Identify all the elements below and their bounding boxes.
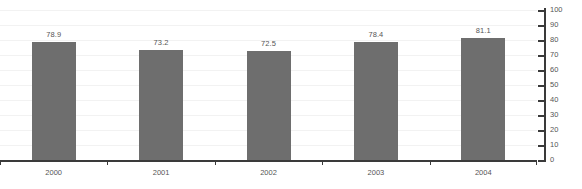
category-tick	[430, 160, 431, 165]
value-tick	[538, 145, 545, 147]
category-tick	[322, 160, 323, 165]
category-label-2000: 2000	[24, 168, 84, 177]
value-tick-label-30: 30	[550, 111, 558, 119]
category-tick	[107, 160, 108, 165]
value-axis: 1009080706050403020100	[537, 0, 582, 189]
value-tick	[538, 115, 545, 117]
bar	[461, 38, 505, 160]
value-tick	[538, 55, 545, 57]
category-label-2004: 2004	[453, 168, 513, 177]
value-tick-label-90: 90	[550, 21, 558, 29]
value-tick-label-70: 70	[550, 51, 558, 59]
bar-value-label: 78.9	[24, 30, 84, 39]
value-tick	[538, 100, 545, 102]
value-tick-label-80: 80	[550, 36, 558, 44]
value-tick-label-10: 10	[550, 141, 558, 149]
category-label-2001: 2001	[131, 168, 191, 177]
baseline	[0, 160, 537, 162]
bar-value-label: 78.4	[346, 30, 406, 39]
category-label-2002: 2002	[239, 168, 299, 177]
bar-value-label: 73.2	[131, 38, 191, 47]
bar	[139, 50, 183, 160]
bar	[354, 42, 398, 160]
value-tick	[538, 160, 545, 162]
value-tick-label-100: 100	[550, 6, 563, 14]
value-tick	[538, 25, 545, 27]
bar-value-label: 72.5	[239, 39, 299, 48]
bar	[247, 51, 291, 160]
value-tick-label-60: 60	[550, 66, 558, 74]
bar	[32, 42, 76, 160]
category-label-2003: 2003	[346, 168, 406, 177]
plot-area: 78.973.272.578.481.1 2000200120022003200…	[0, 0, 537, 189]
bar-chart: 78.973.272.578.481.1 2000200120022003200…	[0, 0, 582, 189]
value-tick	[538, 40, 545, 42]
value-tick	[538, 70, 545, 72]
value-tick-label-50: 50	[550, 81, 558, 89]
value-tick-label-20: 20	[550, 126, 558, 134]
bar-value-label: 81.1	[453, 26, 513, 35]
value-tick-label-0: 0	[550, 156, 554, 164]
value-tick	[538, 130, 545, 132]
category-tick	[0, 160, 1, 165]
gridline	[0, 10, 537, 11]
category-tick	[215, 160, 216, 165]
value-tick	[538, 10, 545, 12]
value-tick	[538, 85, 545, 87]
value-tick-label-40: 40	[550, 96, 558, 104]
